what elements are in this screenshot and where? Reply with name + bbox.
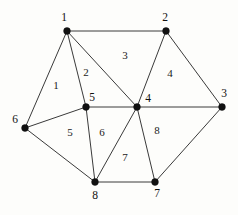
vertex-label-6: 6 [12,114,18,126]
edge-1-4 [67,31,137,107]
vertex-label-8: 8 [92,190,98,202]
edge-3-7 [155,107,222,182]
vertex-label-1: 1 [61,12,67,24]
face-label-3: 3 [122,50,128,61]
edge-6-8 [25,128,95,182]
vertex-node-7[interactable] [152,179,159,186]
vertex-label-2: 2 [162,12,168,24]
edge-2-4 [137,31,166,107]
vertex-node-1[interactable] [64,28,71,35]
face-label-8: 8 [154,125,160,136]
edge-4-8 [95,107,137,182]
face-label-5: 5 [67,127,73,138]
face-label-7: 7 [122,152,128,163]
vertex-label-4: 4 [145,93,151,105]
vertex-node-5[interactable] [83,104,90,111]
edge-2-3 [166,31,222,107]
graph-diagram: 12345678 12345678 [0,0,238,215]
face-label-6: 6 [99,127,105,138]
edge-1-6 [25,31,67,128]
edge-4-7 [137,107,155,182]
edge-5-8 [86,107,95,182]
vertex-label-5: 5 [89,92,95,104]
edge-5-6 [25,107,86,128]
vertex-node-6[interactable] [22,125,29,132]
vertex-node-2[interactable] [163,28,170,35]
vertex-label-7: 7 [154,188,160,200]
vertex-node-3[interactable] [219,104,226,111]
vertex-node-8[interactable] [92,179,99,186]
vertex-node-4[interactable] [134,104,141,111]
face-label-4: 4 [167,68,173,79]
face-label-1: 1 [53,80,59,91]
graph-canvas [0,0,238,215]
face-label-2: 2 [83,67,89,78]
vertex-label-3: 3 [221,88,227,100]
